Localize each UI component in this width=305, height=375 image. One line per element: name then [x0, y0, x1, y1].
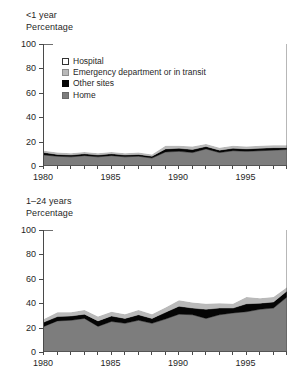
x-axis-ticks: 1980198519901995: [43, 166, 287, 176]
x-axis-tick: [232, 352, 233, 355]
x-axis-tick-label: 1985: [100, 172, 120, 182]
x-axis-tick: [57, 166, 58, 169]
y-axis-tick: [39, 279, 43, 280]
x-axis-tick-label: 1990: [168, 358, 188, 368]
x-axis-tick-label: 1980: [33, 172, 53, 182]
y-axis-tick-label: 100: [21, 39, 36, 49]
x-axis-tick: [205, 166, 206, 169]
x-axis-tick: [286, 352, 287, 355]
x-axis-ticks: 1980198519901995: [43, 352, 287, 362]
x-axis-tick: [57, 352, 58, 355]
chart-panel-1-24-years: 1–24 years Percentage 020406080100 19801…: [0, 186, 305, 375]
y-axis-tick: [39, 303, 43, 304]
hospital-swatch: [62, 58, 69, 65]
legend-label-emergency-department: Emergency department or in transit: [73, 67, 206, 78]
x-axis-tick: [111, 166, 112, 169]
x-axis-tick-label: 1995: [235, 172, 255, 182]
home-swatch: [62, 92, 69, 99]
y-axis-tick: [39, 328, 43, 329]
x-axis-tick: [178, 352, 179, 355]
x-axis-tick: [178, 166, 179, 169]
y-axis-tick-label: 0: [31, 347, 36, 357]
legend-label-hospital: Hospital: [73, 56, 104, 67]
y-axis-tick-label: 80: [26, 249, 36, 259]
x-axis-tick-label: 1985: [100, 358, 120, 368]
x-axis-tick: [138, 166, 139, 169]
y-axis-tick-label: 100: [21, 225, 36, 235]
y-axis-tick: [39, 254, 43, 255]
x-axis-tick-label: 1980: [33, 358, 53, 368]
x-axis-tick: [273, 352, 274, 355]
x-axis-tick: [138, 352, 139, 355]
legend-item-emergency-department: Emergency department or in transit: [62, 67, 206, 78]
x-axis-tick: [111, 352, 112, 355]
legend-label-other-sites: Other sites: [73, 78, 114, 89]
x-axis-tick: [43, 166, 44, 169]
x-axis-tick: [70, 166, 71, 169]
x-axis-tick: [165, 166, 166, 169]
x-axis-tick: [70, 352, 71, 355]
x-axis-tick: [273, 166, 274, 169]
panel-title-unit: Percentage: [26, 22, 73, 32]
legend-item-home: Home: [62, 90, 206, 101]
x-axis-tick: [124, 352, 125, 355]
plot-area-1-24-years: 020406080100 1980198519901995: [43, 230, 287, 352]
x-axis-tick: [232, 166, 233, 169]
y-axis-tick-label: 20: [26, 137, 36, 147]
x-axis-tick: [84, 166, 85, 169]
panel-title-age-group: <1 year: [26, 10, 57, 20]
chart-panel-under-1-year: <1 year Percentage 020406080100 19801985…: [0, 0, 305, 190]
x-axis-tick: [165, 352, 166, 355]
y-axis-tick: [39, 117, 43, 118]
x-axis-tick: [192, 166, 193, 169]
ed-swatch: [62, 69, 69, 76]
x-axis-tick: [151, 352, 152, 355]
x-axis-tick: [43, 352, 44, 355]
x-axis-tick-label: 1990: [168, 172, 188, 182]
y-axis-tick: [39, 230, 43, 231]
y-axis-tick-label: 0: [31, 161, 36, 171]
y-axis-tick: [39, 44, 43, 45]
x-axis-tick: [286, 166, 287, 169]
x-axis-tick: [259, 166, 260, 169]
x-axis-tick: [259, 352, 260, 355]
legend-label-home: Home: [73, 90, 96, 101]
x-axis-tick: [97, 352, 98, 355]
panel-title-age-group: 1–24 years: [26, 196, 72, 206]
other-sites-swatch: [62, 80, 69, 87]
x-axis-tick: [84, 352, 85, 355]
x-axis-tick: [192, 352, 193, 355]
x-axis-tick: [97, 166, 98, 169]
chart-legend: Hospital Emergency department or in tran…: [62, 56, 206, 101]
stacked-area-1-24-years: [44, 230, 287, 352]
y-axis-tick-label: 80: [26, 63, 36, 73]
y-axis-tick: [39, 68, 43, 69]
x-axis-tick: [246, 352, 247, 355]
legend-item-other-sites: Other sites: [62, 78, 206, 89]
x-axis-tick: [151, 166, 152, 169]
y-axis-tick: [39, 142, 43, 143]
x-axis-tick: [246, 166, 247, 169]
y-axis-tick-label: 40: [26, 112, 36, 122]
y-axis-tick-label: 60: [26, 274, 36, 284]
y-axis-tick: [39, 93, 43, 94]
x-axis-tick: [124, 166, 125, 169]
y-axis-tick-label: 20: [26, 323, 36, 333]
panel-title-unit: Percentage: [26, 208, 73, 218]
x-axis-tick-label: 1995: [235, 358, 255, 368]
x-axis-tick: [219, 166, 220, 169]
y-axis-tick-label: 40: [26, 298, 36, 308]
y-axis-tick-label: 60: [26, 88, 36, 98]
legend-item-hospital: Hospital: [62, 56, 206, 67]
x-axis-tick: [219, 352, 220, 355]
x-axis-tick: [205, 352, 206, 355]
